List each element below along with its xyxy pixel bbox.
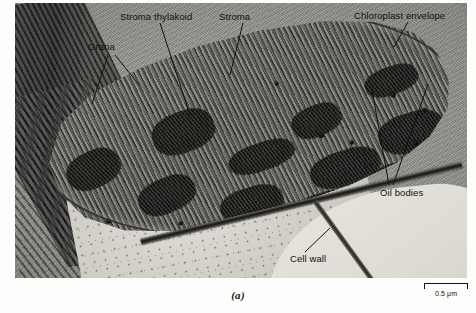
label-chloroplast-envelope: Chloroplast envelope	[354, 10, 445, 21]
label-oil-bodies: Oil bodies	[380, 187, 423, 198]
scale-bar: 0.5 μm	[424, 283, 468, 297]
scale-bar-label: 0.5 μm	[424, 290, 468, 297]
panel-label: (a)	[0, 289, 476, 301]
figure-panel: Grana Stroma thylakoid Stroma Chloroplas…	[0, 0, 476, 313]
label-stroma: Stroma	[219, 11, 250, 22]
scale-bar-rule	[424, 283, 468, 289]
scale-bar-tick-left	[424, 283, 425, 289]
label-stroma-thylakoid: Stroma thylakoid	[120, 11, 192, 22]
label-cell-wall: Cell wall	[290, 253, 326, 264]
scale-bar-horizontal	[424, 283, 468, 284]
label-grana: Grana	[88, 41, 115, 52]
scale-bar-tick-right	[467, 283, 468, 289]
electron-micrograph-image	[15, 3, 467, 278]
